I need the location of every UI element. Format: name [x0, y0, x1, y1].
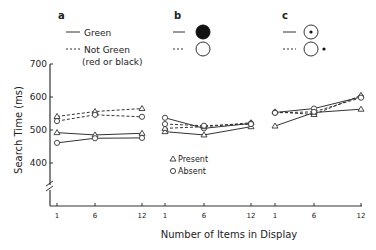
- series-line: [57, 138, 142, 143]
- absent-circle-marker: [162, 121, 167, 126]
- absent-circle-marker: [311, 109, 316, 114]
- chart-svg: 700600500400Search Time (ms)161216121612…: [0, 0, 376, 250]
- search-time-chart: 700600500400Search Time (ms)161216121612…: [0, 0, 376, 250]
- absent-circle-marker: [170, 168, 175, 173]
- panel-c-plot: [272, 92, 364, 128]
- absent-circle-marker: [92, 136, 97, 141]
- inner-dot: [309, 30, 312, 33]
- absent-circle-marker: [248, 121, 253, 126]
- x-tick-label: 12: [357, 212, 366, 220]
- y-tick-label: 700: [30, 59, 47, 69]
- legend-present-label: Present: [178, 155, 208, 164]
- x-tick-label: 1: [55, 212, 59, 220]
- panel-b-plot: [162, 115, 254, 137]
- x-tick-label: 12: [247, 212, 256, 220]
- absent-circle-marker: [54, 140, 59, 145]
- present-triangle-marker: [139, 106, 145, 111]
- series-line: [57, 115, 142, 121]
- legends: aGreenNot Green(red or black)bcPresentAb…: [58, 10, 326, 176]
- absent-circle-marker: [201, 123, 206, 128]
- x-tick-label: 6: [312, 212, 317, 220]
- x-tick-label: 12: [138, 212, 147, 220]
- x-axis-label: Number of Items in Display: [161, 229, 298, 240]
- present-triangle-marker: [54, 130, 60, 135]
- y-tick-label: 600: [30, 92, 47, 102]
- present-triangle-marker: [139, 130, 145, 135]
- open-circle-icon: [196, 42, 210, 56]
- present-triangle-marker: [358, 106, 364, 111]
- present-triangle-marker: [170, 156, 176, 161]
- legend-not-green-label: Not Green: [84, 45, 130, 55]
- x-tick-label: 1: [163, 212, 167, 220]
- circle-dot-outside-icon: [304, 42, 318, 56]
- panel-b-label: b: [174, 10, 181, 21]
- absent-circle-marker: [358, 95, 363, 100]
- y-tick-label: 400: [30, 158, 47, 168]
- panel-c-label: c: [282, 10, 288, 21]
- outer-dot: [322, 47, 325, 50]
- axes: 700600500400Search Time (ms)161216121612…: [13, 59, 365, 240]
- series-line: [275, 109, 361, 126]
- x-tick-label: 6: [93, 212, 98, 220]
- absent-circle-marker: [139, 114, 144, 119]
- legend-green-label: Green: [84, 28, 111, 38]
- series-line: [57, 133, 142, 135]
- x-tick-label: 1: [273, 212, 277, 220]
- absent-circle-marker: [54, 118, 59, 123]
- plot-area: [54, 92, 364, 145]
- y-tick-label: 500: [30, 125, 47, 135]
- series-line: [57, 109, 142, 117]
- series-line: [165, 118, 251, 129]
- absent-circle-marker: [92, 112, 97, 117]
- absent-circle-marker: [139, 135, 144, 140]
- y-axis-label: Search Time (ms): [13, 86, 24, 174]
- legend-red-or-black-label: (red or black): [82, 57, 143, 67]
- filled-circle-icon: [196, 25, 210, 39]
- absent-circle-marker: [272, 110, 277, 115]
- legend-absent-label: Absent: [178, 167, 206, 176]
- panel-a-label: a: [58, 10, 65, 21]
- x-tick-label: 6: [202, 212, 207, 220]
- panel-a-plot: [54, 106, 145, 146]
- absent-circle-marker: [162, 115, 167, 120]
